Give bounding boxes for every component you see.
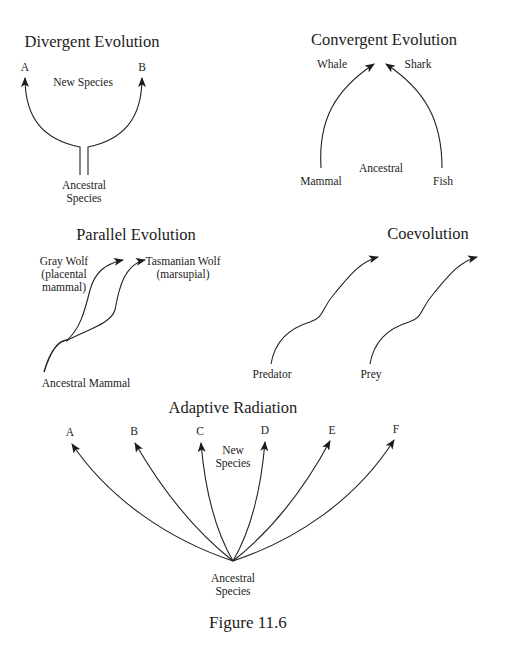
coevolution-prey-label: Prey [360,368,381,381]
divergent-ancestral-label-2: Species [66,192,102,205]
divergent-ancestral-label-1: Ancestral [62,179,106,191]
adaptive-species-c-label: C [196,425,204,437]
divergent-label-a: A [21,61,30,73]
adaptive-new-species-label-2: Species [215,457,251,470]
adaptive-species-a-label: A [66,426,75,438]
convergent-mammal-to-whale-arrow [321,64,374,168]
parallel-common-stem [44,340,68,372]
figure-caption: Figure 11.6 [209,613,287,632]
adaptive-species-f-label: F [393,423,399,435]
coevolution-prey-arrow [370,257,477,364]
divergent-label-b: B [138,61,146,73]
convergent-mammal-label: Mammal [300,175,342,187]
parallel-gray-wolf-label-3: mammal) [42,281,86,294]
adaptive-branch-f-arrow [233,440,394,561]
divergent-title: Divergent Evolution [25,32,160,51]
divergent-branch-a-arrow [25,78,80,175]
convergent-whale-label: Whale [317,58,347,70]
convergent-ancestral-label: Ancestral [359,162,403,174]
convergent-evolution-panel: Convergent Evolution Whale Shark Ancestr… [300,30,457,187]
parallel-gray-wolf-label-2: (placental [41,268,86,281]
parallel-tasmanian-wolf-label-1: Tasmanian Wolf [145,255,220,267]
divergent-new-species-label: New Species [53,76,113,89]
coevolution-predator-label: Predator [253,368,292,380]
parallel-evolution-panel: Parallel Evolution Gray Wolf (placental … [40,225,221,389]
adaptive-species-b-label: B [130,425,138,437]
convergent-shark-label: Shark [405,58,432,70]
adaptive-species-e-label: E [328,424,335,436]
adaptive-ancestral-label-1: Ancestral [211,572,255,584]
adaptive-species-d-label: D [261,424,269,436]
adaptive-title: Adaptive Radiation [169,398,298,417]
divergent-branch-b-arrow [88,78,142,175]
coevolution-title: Coevolution [387,224,469,243]
evolution-patterns-figure: Divergent Evolution A B New Species Ance… [0,0,508,652]
parallel-gray-wolf-label-1: Gray Wolf [40,255,89,268]
coevolution-panel: Coevolution Predator Prey [253,224,477,381]
adaptive-radiation-panel: Adaptive Radiation A B C D E F New Speci… [66,398,399,598]
parallel-title: Parallel Evolution [76,225,196,244]
adaptive-ancestral-label-2: Species [215,585,251,598]
adaptive-new-species-label-1: New [222,444,244,456]
parallel-ancestral-mammal-label: Ancestral Mammal [42,377,130,389]
adaptive-branch-a-arrow [72,444,233,561]
convergent-fish-to-shark-arrow [386,64,442,168]
coevolution-predator-arrow [271,257,378,364]
convergent-fish-label: Fish [433,175,453,187]
parallel-tasmanian-wolf-label-2: (marsupial) [156,268,209,281]
divergent-evolution-panel: Divergent Evolution A B New Species Ance… [21,32,160,205]
convergent-title: Convergent Evolution [311,30,457,49]
